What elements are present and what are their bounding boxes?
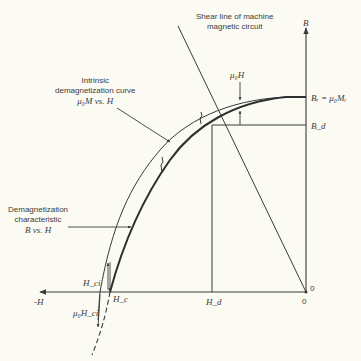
intrinsic-pointer	[117, 108, 170, 142]
br-label: Bᵣ = μ₀Mᵣ	[311, 93, 347, 103]
intrinsic-continuation	[92, 292, 110, 355]
hc-label: H_c	[113, 294, 128, 304]
shear-line-label-line2: magnetic circuit	[196, 22, 273, 32]
origin-label-right: 0	[310, 284, 314, 294]
mu0h-label: μ₀H	[230, 70, 244, 80]
hd-label: H_d	[206, 297, 222, 307]
demag-label-line2: characteristic	[8, 215, 68, 225]
intrinsic-label-line1: Intrinsic	[55, 76, 136, 86]
demag-label-line3: B vs. H	[8, 225, 68, 235]
intrinsic-label-line2: demagnetization curve	[55, 86, 136, 96]
neg-h-label: -H	[34, 297, 44, 307]
demag-curve	[110, 97, 306, 292]
diagram-canvas	[0, 0, 361, 361]
intrinsic-label: Intrinsic demagnetization curve μ₀M vs. …	[55, 76, 136, 106]
origin-label-below: 0	[302, 297, 306, 307]
intrinsic-label-line3: μ₀M vs. H	[55, 96, 136, 106]
b-axis-label: B	[303, 18, 309, 28]
shear-line-label: Shear line of machine magnetic circuit	[196, 12, 273, 32]
hci-label: H_ci	[83, 278, 101, 288]
demag-label: Demagnetization characteristic B vs. H	[8, 205, 68, 235]
shear-line-label-line1: Shear line of machine	[196, 12, 273, 22]
origin-point	[305, 291, 308, 294]
mu0hci-label: μ₀H_ci	[73, 308, 98, 318]
demag-label-line1: Demagnetization	[8, 205, 68, 215]
shear-line	[178, 26, 306, 292]
bd-label: B_d	[311, 121, 326, 131]
